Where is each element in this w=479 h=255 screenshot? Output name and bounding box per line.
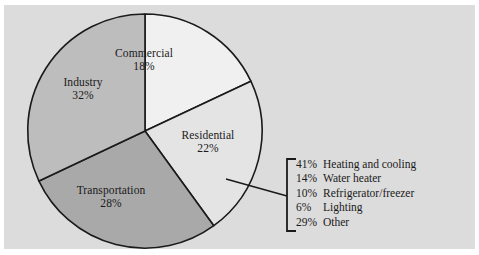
slice-label-industry-name: Industry — [63, 76, 102, 89]
breakdown-percent: 41% — [296, 157, 323, 171]
residential-breakdown-list: 41% Heating and cooling 14% Water heater… — [296, 157, 471, 229]
slice-label-residential-value: 22% — [182, 142, 235, 155]
slice-label-industry: Industry 32% — [63, 76, 102, 102]
breakdown-percent: 6% — [296, 200, 323, 214]
breakdown-label: Lighting — [323, 200, 471, 214]
slice-label-transportation-name: Transportation — [77, 184, 146, 197]
slice-label-transportation-value: 28% — [77, 197, 146, 210]
slice-label-commercial-value: 18% — [115, 60, 173, 73]
slice-label-commercial-name: Commercial — [115, 47, 173, 60]
breakdown-label: Refrigerator/freezer — [323, 186, 471, 200]
breakdown-label: Water heater — [323, 171, 471, 185]
breakdown-row: 6% Lighting — [296, 200, 471, 214]
breakdown-percent: 29% — [296, 215, 323, 229]
breakdown-row: 10% Refrigerator/freezer — [296, 186, 471, 200]
slice-label-transportation: Transportation 28% — [77, 184, 146, 210]
breakdown-percent: 10% — [296, 186, 323, 200]
callout-bracket — [287, 159, 296, 231]
slice-label-industry-value: 32% — [63, 89, 102, 102]
breakdown-row: 41% Heating and cooling — [296, 157, 471, 171]
breakdown-row: 29% Other — [296, 215, 471, 229]
breakdown-row: 14% Water heater — [296, 171, 471, 185]
breakdown-label: Other — [323, 215, 471, 229]
slice-label-residential-name: Residential — [182, 129, 235, 142]
slice-label-commercial: Commercial 18% — [115, 47, 173, 73]
breakdown-label: Heating and cooling — [323, 157, 471, 171]
breakdown-percent: 14% — [296, 171, 323, 185]
slice-label-residential: Residential 22% — [182, 129, 235, 155]
pie-chart-figure: Commercial 18% Residential 22% Transport… — [0, 0, 479, 255]
